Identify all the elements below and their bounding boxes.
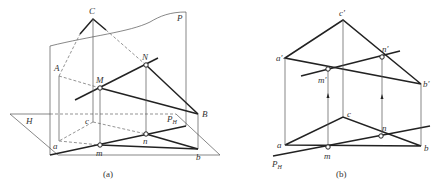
caption-a: (a) bbox=[103, 169, 113, 179]
label-M: M bbox=[95, 75, 104, 85]
point-m bbox=[326, 145, 330, 149]
label-m: m bbox=[96, 148, 103, 158]
figure-b: c′ a′ n′ m′ b′ c a m n b PH (b) bbox=[271, 8, 431, 179]
label-n-prime: n′ bbox=[382, 44, 390, 54]
label-n: n bbox=[382, 123, 387, 133]
label-a: a bbox=[53, 141, 58, 151]
label-m-prime: m′ bbox=[318, 75, 327, 85]
label-a-prime: a′ bbox=[276, 53, 284, 63]
edge-cn-hidden bbox=[106, 30, 146, 65]
point-n bbox=[379, 134, 383, 138]
point-N bbox=[144, 63, 148, 67]
label-a: a bbox=[277, 140, 282, 150]
arrow-up-n bbox=[381, 94, 384, 99]
label-c: c bbox=[347, 109, 351, 119]
pu-trace-line bbox=[50, 126, 186, 155]
figure-a: C P A M N B H c PH a m n b (a) bbox=[10, 6, 220, 179]
label-c: c bbox=[85, 116, 89, 126]
edge-mb-proj bbox=[100, 145, 198, 149]
label-Pu: PH bbox=[166, 114, 178, 125]
label-b: b bbox=[424, 143, 429, 153]
label-Pu: PH bbox=[271, 159, 283, 170]
label-m: m bbox=[324, 151, 331, 161]
caption-b: (b) bbox=[336, 169, 347, 179]
label-c-prime: c′ bbox=[339, 8, 346, 18]
label-P: P bbox=[176, 13, 183, 23]
p-plane-outline bbox=[50, 12, 186, 126]
label-H: H bbox=[25, 116, 33, 126]
arrow-up-m bbox=[327, 93, 330, 98]
edge-cn-proj bbox=[93, 122, 146, 134]
label-b: b bbox=[196, 152, 201, 162]
edge-am-hidden bbox=[59, 76, 100, 88]
point-m bbox=[98, 143, 102, 147]
label-b-prime: b′ bbox=[423, 79, 431, 89]
label-n: n bbox=[143, 136, 148, 146]
label-N: N bbox=[141, 52, 149, 62]
label-A: A bbox=[53, 63, 60, 73]
point-m-prime bbox=[326, 67, 330, 71]
label-B: B bbox=[202, 109, 208, 119]
point-n-prime bbox=[380, 55, 384, 59]
diagram-canvas: C P A M N B H c PH a m n b (a) bbox=[0, 0, 434, 189]
point-M bbox=[98, 86, 102, 90]
label-C: C bbox=[89, 6, 96, 16]
edge-am-proj bbox=[59, 141, 100, 145]
